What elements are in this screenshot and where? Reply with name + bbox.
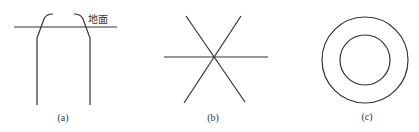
diagonal-line-1 <box>186 16 245 102</box>
caption-a: (a) <box>57 112 68 124</box>
caption-c: (c) <box>361 111 372 123</box>
diagonal-line-2 <box>184 16 241 103</box>
figure-canvas: 地面 (a) (b) (c) <box>0 0 419 132</box>
panel-b: (b) <box>164 16 268 124</box>
left-pipe <box>37 14 53 105</box>
panel-c: (c) <box>322 17 408 123</box>
inner-circle <box>340 35 390 85</box>
caption-b: (b) <box>207 112 219 124</box>
panel-a: 地面 (a) <box>14 13 117 124</box>
ground-label: 地面 <box>88 13 108 25</box>
right-pipe <box>74 14 90 105</box>
outer-circle <box>322 17 408 103</box>
